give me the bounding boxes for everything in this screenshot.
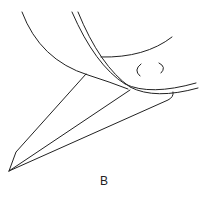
diagram-figure: B (0, 0, 209, 199)
blade-upper-edge (9, 74, 86, 171)
line-drawing (0, 0, 209, 199)
double-curve-outer (72, 12, 196, 90)
left-paren-mark (137, 64, 141, 76)
blade-lower-edge (9, 92, 173, 171)
panel-label: B (97, 174, 111, 188)
outer-arc (22, 12, 128, 89)
blade-middle-edge (9, 90, 130, 171)
upper-arc (101, 37, 172, 57)
right-paren-mark (159, 63, 164, 73)
